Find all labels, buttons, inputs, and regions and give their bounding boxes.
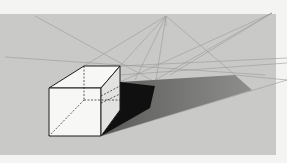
cube-front-face bbox=[49, 88, 101, 136]
page-margin-top bbox=[0, 0, 287, 14]
perspective-cube-illustration bbox=[0, 0, 287, 163]
